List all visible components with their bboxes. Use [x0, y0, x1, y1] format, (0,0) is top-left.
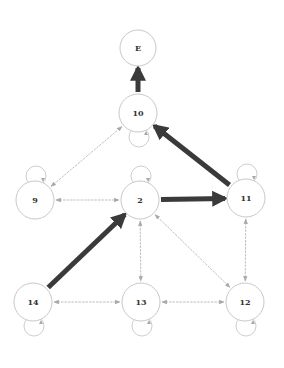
node-label-E: E	[118, 43, 158, 53]
node-label-2: 2	[120, 195, 160, 205]
node-label-11: 11	[226, 193, 266, 203]
edge-11-to-12	[245, 219, 246, 281]
edge-14-to-2	[48, 214, 125, 287]
node-label-13: 13	[121, 297, 161, 307]
graph-canvas	[0, 0, 284, 368]
edge-2-to-13	[140, 221, 141, 281]
node-label-10: 10	[118, 108, 158, 118]
edge-11-to-10	[155, 126, 230, 185]
graph-diagram: E109211141312	[0, 0, 284, 368]
node-label-14: 14	[13, 297, 53, 307]
node-label-9: 9	[15, 195, 55, 205]
edge-2-to-12	[155, 215, 230, 288]
edge-9-to-10	[51, 127, 122, 187]
edge-2-to-11	[161, 198, 225, 199]
node-label-12: 12	[225, 297, 265, 307]
